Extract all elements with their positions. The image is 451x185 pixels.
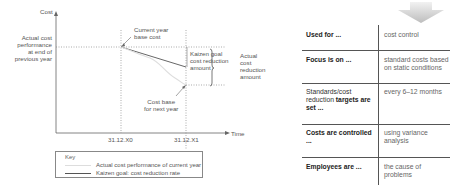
row-value: using variance analysis xyxy=(378,125,450,157)
label-line: performance xyxy=(15,41,52,48)
label-line: Kaizen goal xyxy=(190,50,229,57)
actual-cost-curve xyxy=(121,47,186,85)
row-label-bold: Focus is on ... xyxy=(306,56,351,63)
label-line: at end of xyxy=(15,48,52,55)
column-divider xyxy=(378,51,379,83)
label-line: reduction xyxy=(240,66,265,73)
column-divider xyxy=(378,125,379,157)
row-label: Employees are ... xyxy=(302,158,378,185)
label-line: Cost base xyxy=(144,98,178,105)
traditional-costing-table-panel: Used for ... cost control Focus is on ..… xyxy=(296,0,451,185)
row-label: Costs are controlled ... xyxy=(302,125,378,157)
base-cost-label: Current year base cost xyxy=(134,26,168,40)
arrow-down-icon xyxy=(396,2,446,24)
table-row: Used for ... cost control xyxy=(302,25,450,50)
label-line: Actual xyxy=(240,52,265,59)
label-line: for next year xyxy=(144,105,178,112)
actual-reduction-label: Actual cost reduction amount xyxy=(240,52,265,80)
kaizen-cost-chart: Cost Actual cost performance at end of p… xyxy=(0,0,290,185)
label-line: amount xyxy=(190,64,229,71)
prev-year-label: Actual cost performance at end of previo… xyxy=(15,34,52,62)
column-divider xyxy=(378,84,379,124)
legend-label: Kaizen goal: cost reduction rate xyxy=(96,170,180,176)
next-year-pointer xyxy=(176,87,184,96)
table-row: Standards/cost reduction targets are set… xyxy=(302,83,450,124)
row-value: every 6–12 months xyxy=(378,84,450,124)
legend-swatch-light xyxy=(65,165,91,166)
row-label: Used for ... xyxy=(302,25,378,50)
x-tick-x0: 31.12.X0 xyxy=(108,136,133,143)
x-tick-x1: 31.12.X1 xyxy=(174,136,199,143)
comparison-table: Used for ... cost control Focus is on ..… xyxy=(302,25,450,185)
row-label-bold: Used for ... xyxy=(306,31,341,38)
y-axis-label: Cost xyxy=(40,8,53,15)
label-line: amount xyxy=(240,73,265,80)
row-label: Standards/cost reduction targets are set… xyxy=(302,84,378,124)
legend-swatch-dark xyxy=(65,173,91,174)
legend: Key Actual cost performance of current y… xyxy=(55,151,203,178)
legend-item: Actual cost performance of current year xyxy=(65,162,201,168)
row-label: Focus is on ... xyxy=(302,51,378,83)
row-label-bold: Employees are ... xyxy=(306,163,362,170)
table-row: Employees are ... the cause of problems xyxy=(302,157,450,185)
row-value: cost control xyxy=(378,25,450,50)
row-label-bold: Costs are controlled ... xyxy=(306,129,372,144)
label-line: previous year xyxy=(15,55,52,62)
column-divider xyxy=(378,158,379,185)
kaizen-goal-label: Kaizen goal cost reduction amount xyxy=(190,50,229,71)
row-value: the cause of problems xyxy=(378,158,450,185)
row-value: standard costs based on static condition… xyxy=(378,51,450,83)
table-row: Costs are controlled ... using variance … xyxy=(302,124,450,157)
column-divider xyxy=(378,25,379,50)
kaizen-goal-line xyxy=(121,47,186,67)
x-axis-label: Time xyxy=(231,130,245,137)
label-line: base cost xyxy=(134,33,168,40)
y-axis-arrow-icon xyxy=(54,11,58,16)
x-axis-arrow-icon xyxy=(225,131,230,135)
legend-label: Actual cost performance of current year xyxy=(96,162,201,168)
label-line: cost xyxy=(240,59,265,66)
label-line: Actual cost xyxy=(15,34,52,41)
table-row: Focus is on ... standard costs based on … xyxy=(302,50,450,83)
label-line: Current year xyxy=(134,26,168,33)
legend-item: Kaizen goal: cost reduction rate xyxy=(65,170,180,176)
next-year-label: Cost base for next year xyxy=(144,98,178,112)
legend-title: Key xyxy=(65,154,75,160)
label-line: cost reduction xyxy=(190,57,229,64)
